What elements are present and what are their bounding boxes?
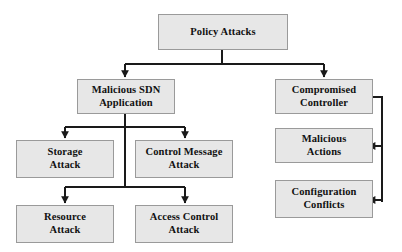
node-malicious-actions[interactable]: Malicious Actions	[275, 128, 373, 163]
edge-controller-bus	[373, 97, 382, 202]
node-access-control-attack[interactable]: Access Control Attack	[135, 205, 233, 243]
node-malicious-sdn-application[interactable]: Malicious SDN Application	[77, 79, 175, 114]
node-compromised-controller-label: Compromised Controller	[292, 84, 357, 110]
node-malicious-sdn-application-label: Malicious SDN Application	[92, 84, 161, 110]
node-compromised-controller[interactable]: Compromised Controller	[275, 79, 373, 114]
node-configuration-conflicts-label: Configuration Conflicts	[292, 186, 357, 212]
node-control-message-attack[interactable]: Control Message Attack	[135, 140, 233, 178]
node-policy-attacks[interactable]: Policy Attacks	[158, 14, 288, 50]
node-storage-attack-label: Storage Attack	[47, 146, 82, 172]
diagram-canvas: Policy Attacks Malicious SDN Application…	[0, 0, 402, 252]
node-configuration-conflicts[interactable]: Configuration Conflicts	[275, 180, 373, 218]
node-storage-attack[interactable]: Storage Attack	[16, 140, 114, 178]
node-resource-attack[interactable]: Resource Attack	[16, 205, 114, 243]
node-malicious-actions-label: Malicious Actions	[302, 133, 347, 159]
node-resource-attack-label: Resource Attack	[44, 211, 86, 237]
node-access-control-attack-label: Access Control Attack	[150, 211, 219, 237]
node-policy-attacks-label: Policy Attacks	[190, 26, 255, 39]
node-control-message-attack-label: Control Message Attack	[146, 146, 223, 172]
